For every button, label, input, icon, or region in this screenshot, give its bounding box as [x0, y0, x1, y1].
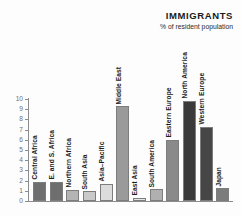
bar-category-label: Eastern Europe: [166, 88, 173, 138]
bar[interactable]: South America: [150, 189, 163, 201]
y-tick-label: 3: [19, 167, 23, 174]
bar-category-label: Asia–Pacific: [99, 142, 106, 182]
bar-category-label: Japan: [216, 167, 223, 187]
y-tick-label: 6: [19, 137, 23, 144]
bar-category-label: Western Europe: [199, 73, 206, 125]
bar[interactable]: North America: [183, 101, 196, 201]
y-tick-label: 1: [19, 188, 23, 195]
y-tick-label: 0: [19, 198, 23, 205]
y-tick-mark: [25, 191, 28, 192]
immigrants-bar-chart: IMMIGRANTS % of resident population 0123…: [0, 0, 241, 216]
bar[interactable]: Western Europe: [200, 127, 213, 201]
y-tick-label: 2: [19, 177, 23, 184]
bar-slot: Japan: [214, 98, 231, 201]
bar[interactable]: Eastern Europe: [166, 140, 179, 201]
y-tick-mark: [25, 99, 28, 100]
y-tick-mark: [25, 150, 28, 151]
y-tick-mark: [25, 130, 28, 131]
bar-category-label: North America: [183, 53, 190, 100]
y-tick-label: 8: [19, 116, 23, 123]
bar[interactable]: East Asia: [133, 198, 146, 201]
y-tick-mark: [25, 181, 28, 182]
bar-slot: E. and S. Africa: [48, 98, 65, 201]
y-tick-label: 10: [16, 96, 23, 103]
y-tick-mark: [25, 170, 28, 171]
bar-slot: Middle East: [114, 98, 131, 201]
y-tick-mark: [25, 160, 28, 161]
y-tick-mark: [25, 119, 28, 120]
bar[interactable]: E. and S. Africa: [50, 182, 63, 201]
bar-slot: South Asia: [81, 98, 98, 201]
bar-category-label: E. and S. Africa: [49, 130, 56, 180]
chart-title-block: IMMIGRANTS % of resident population: [160, 10, 233, 31]
bar[interactable]: South Asia: [83, 191, 96, 201]
bar-category-label: South America: [149, 140, 156, 188]
y-tick-label: 7: [19, 126, 23, 133]
bar-slot: Central Africa: [31, 98, 48, 201]
bar-category-label: South Asia: [83, 154, 90, 189]
plot-area: 012345678910 Central AfricaE. and S. Afr…: [28, 98, 233, 202]
bar-slot: East Asia: [131, 98, 148, 201]
bar[interactable]: Northern Africa: [66, 190, 79, 201]
y-tick-label: 5: [19, 147, 23, 154]
bar-slot: North America: [181, 98, 198, 201]
y-tick-label: 9: [19, 106, 23, 113]
bar-slot: South America: [148, 98, 165, 201]
bar[interactable]: Japan: [216, 188, 229, 201]
bar-slot: Eastern Europe: [164, 98, 181, 201]
chart-subtitle: % of resident population: [160, 22, 233, 31]
bar-category-label: Central Africa: [33, 135, 40, 179]
bar[interactable]: Middle East: [116, 106, 129, 201]
bar-slot: Asia–Pacific: [98, 98, 115, 201]
y-tick-mark: [25, 109, 28, 110]
y-tick-label: 4: [19, 157, 23, 164]
bar-category-label: Middle East: [116, 66, 123, 104]
bar-series: Central AfricaE. and S. AfricaNorthern A…: [29, 98, 233, 201]
y-tick-mark: [25, 140, 28, 141]
bar[interactable]: Asia–Pacific: [100, 184, 113, 201]
y-tick-mark: [25, 201, 28, 202]
bar[interactable]: Central Africa: [33, 182, 46, 201]
bar-slot: Northern Africa: [64, 98, 81, 201]
x-axis-line: [28, 201, 233, 202]
bar-category-label: Northern Africa: [66, 138, 73, 188]
bar-slot: Western Europe: [198, 98, 215, 201]
bar-category-label: East Asia: [133, 166, 140, 196]
page-title: IMMIGRANTS: [160, 10, 233, 21]
